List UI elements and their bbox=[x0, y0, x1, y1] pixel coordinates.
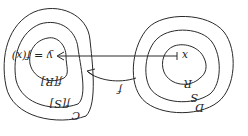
label-f: f bbox=[116, 83, 123, 96]
codomain-set-group: C f[S] f[R] y = f(x) bbox=[4, 8, 93, 122]
function-mapping-diagram: D S R x f C f[S] f[R] y = f(x) bbox=[0, 0, 248, 136]
domain-set-group: D S R x bbox=[133, 16, 233, 114]
label-S: S bbox=[190, 91, 198, 104]
domain-S-curve bbox=[146, 30, 219, 102]
label-fS: f[S] bbox=[49, 97, 71, 110]
f-curve-arrow bbox=[88, 72, 136, 81]
domain-D-curve bbox=[133, 16, 233, 112]
label-fR: f[R] bbox=[40, 75, 63, 88]
codomain-C-curve bbox=[4, 8, 93, 120]
label-R: R bbox=[184, 77, 193, 90]
codomain-fS-curve bbox=[15, 22, 83, 107]
mapping-arrow-group bbox=[57, 52, 177, 60]
f-arrow-group: f bbox=[87, 69, 136, 96]
label-x: x bbox=[181, 49, 188, 62]
label-y-equals-fx: y = f(x) bbox=[12, 49, 54, 62]
label-C: C bbox=[71, 109, 80, 122]
